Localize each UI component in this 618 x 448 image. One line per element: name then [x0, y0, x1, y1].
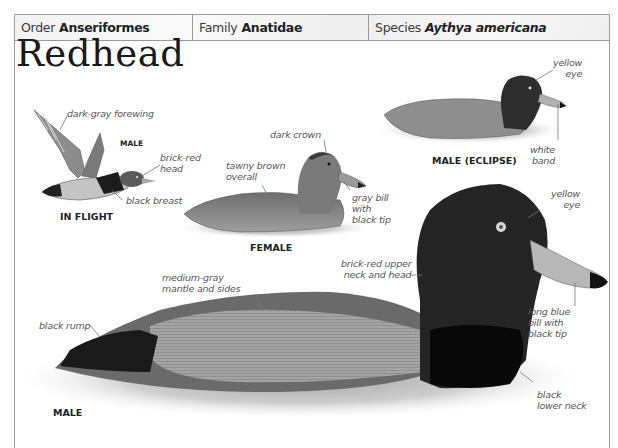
- label-line: brick-red upper: [341, 258, 411, 269]
- label-line: eye: [553, 68, 582, 79]
- label-brick-red-upper-neck: brick-red upper neck and head: [341, 258, 411, 280]
- label-line: yellow: [553, 57, 582, 68]
- label-gray-bill-black-tip: gray bill with black tip: [352, 192, 391, 225]
- flight-duck-illustration: [34, 110, 156, 200]
- label-black-breast: black breast: [126, 195, 182, 206]
- label-line: tawny brown: [226, 160, 285, 171]
- label-line: brick-red: [160, 152, 201, 163]
- label-line: yellow: [551, 188, 580, 199]
- label-line: long blue: [528, 306, 570, 317]
- male-eclipse-duck-illustration: [375, 75, 566, 144]
- label-dark-crown: dark crown: [270, 129, 321, 140]
- label-line: bill with: [528, 317, 570, 328]
- label-tawny-brown-overall: tawny brown overall: [226, 160, 285, 182]
- label-dark-gray-forewing: dark-gray forewing: [67, 108, 154, 119]
- label-male-yellow-eye: yellow eye: [551, 188, 580, 210]
- illustrations: [0, 0, 618, 448]
- label-line: head: [160, 163, 201, 174]
- label-line: with: [352, 203, 391, 214]
- label-line: mantle and sides: [162, 283, 240, 294]
- flight-head: [120, 171, 144, 187]
- label-black-lower-neck: black lower neck: [537, 389, 587, 411]
- label-line: white: [530, 144, 555, 155]
- label-eclipse-yellow-eye: yellow eye: [553, 57, 582, 79]
- label-white-band: white band: [530, 144, 555, 166]
- label-line: neck and head: [341, 269, 411, 280]
- label-line: medium-gray: [162, 272, 240, 283]
- flight-bill: [142, 178, 156, 184]
- label-line: band: [530, 155, 555, 166]
- label-line: eye: [551, 199, 580, 210]
- label-long-blue-bill: long blue bill with black tip: [528, 306, 570, 339]
- label-line: black tip: [352, 214, 391, 225]
- caption-male: MALE: [53, 407, 82, 418]
- flight-tail: [42, 184, 62, 197]
- caption-male-eclipse: MALE (ECLIPSE): [432, 155, 517, 166]
- flight-far-wing: [82, 133, 104, 178]
- flight-sex-label: MALE: [120, 139, 143, 148]
- label-line: black: [537, 389, 587, 400]
- label-black-rump: black rump: [39, 320, 90, 331]
- label-line: overall: [226, 171, 285, 182]
- label-line: gray bill: [352, 192, 391, 203]
- caption-female: FEMALE: [250, 242, 292, 253]
- label-line: lower neck: [537, 400, 587, 411]
- caption-in-flight: IN FLIGHT: [60, 211, 113, 222]
- label-line: black tip: [528, 328, 570, 339]
- label-brick-red-head: brick-red head: [160, 152, 201, 174]
- label-medium-gray-mantle: medium-gray mantle and sides: [162, 272, 240, 294]
